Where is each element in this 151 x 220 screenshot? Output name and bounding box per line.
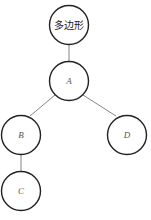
node-a-label: A — [65, 76, 72, 86]
tree-diagram: 多边形 A B D C — [0, 0, 151, 220]
node-c-label: C — [18, 186, 25, 196]
node-b-label: B — [18, 130, 24, 140]
node-c: C — [2, 172, 41, 211]
node-d: D — [108, 116, 147, 155]
node-root-label: 多边形 — [54, 19, 84, 31]
node-b: B — [2, 116, 41, 155]
edge-a-b — [30, 95, 55, 116]
edge-a-d — [83, 95, 116, 116]
node-d-label: D — [123, 130, 131, 140]
node-root: 多边形 — [50, 6, 89, 45]
node-a: A — [50, 62, 89, 101]
